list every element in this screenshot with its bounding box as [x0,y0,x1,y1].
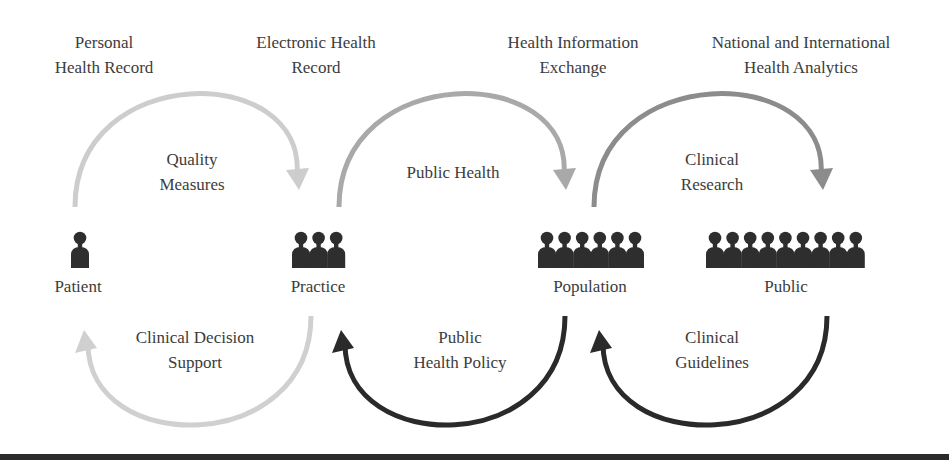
flow-clinical-guidelines: Clinical Guidelines [675,325,749,375]
patient-people-icon [71,232,89,268]
flow-label-line: Public Health [406,160,499,185]
system-label-line: Record [256,55,375,80]
population-people-icon [538,232,644,268]
system-label-line: Exchange [508,55,639,80]
flow-label-line: Support [136,350,255,375]
node-public-label: Public [764,274,807,299]
bottom-border-bar [0,454,949,460]
system-label-line: Health Information [508,30,639,55]
system-label-line: Personal [55,30,154,55]
flow-label-line: Public [413,325,506,350]
flow-public-health: Public Health [406,160,499,185]
flow-label-line: Clinical [681,147,743,172]
system-label-line: Health Analytics [712,55,890,80]
flow-label-line: Quality [159,147,224,172]
system-personal-health-record: Personal Health Record [55,30,154,80]
public-people-icon [706,232,865,268]
system-label-line: Health Record [55,55,154,80]
flow-label-line: Clinical [675,325,749,350]
system-label-line: National and International [712,30,890,55]
flow-clinical-research: Clinical Research [681,147,743,197]
node-patient-label: Patient [54,274,101,299]
flow-label-line: Research [681,172,743,197]
flow-label-line: Health Policy [413,350,506,375]
flow-quality-measures: Quality Measures [159,147,224,197]
public-health-arrow [339,94,576,207]
flow-label-line: Guidelines [675,350,749,375]
system-label-line: Electronic Health [256,30,375,55]
flow-clinical-decision-support: Clinical Decision Support [136,325,255,375]
practice-people-icon [292,232,345,268]
flow-label-line: Measures [159,172,224,197]
system-electronic-health-record: Electronic Health Record [256,30,375,80]
flow-label-line: Clinical Decision [136,325,255,350]
flow-public-health-policy: Public Health Policy [413,325,506,375]
node-population-label: Population [553,274,627,299]
system-health-information-exchange: Health Information Exchange [508,30,639,80]
system-health-analytics: National and International Health Analyt… [712,30,890,80]
node-practice-label: Practice [291,274,346,299]
